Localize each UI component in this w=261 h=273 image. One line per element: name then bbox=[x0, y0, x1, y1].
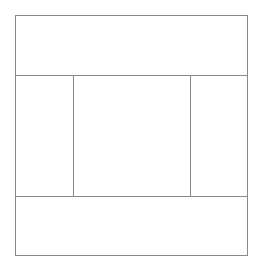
left-sidebar-region bbox=[16, 76, 73, 196]
right-sidebar-region bbox=[191, 76, 247, 196]
outer-border-right bbox=[247, 15, 248, 256]
layout-wireframe-diagram bbox=[0, 0, 261, 273]
outer-border-bottom bbox=[15, 255, 248, 256]
main-content-region bbox=[74, 76, 190, 196]
header-region bbox=[16, 16, 247, 75]
footer-region bbox=[16, 197, 247, 255]
